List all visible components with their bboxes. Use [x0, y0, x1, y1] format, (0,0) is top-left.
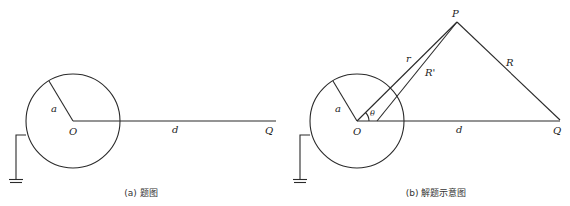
label-Q: Q — [553, 125, 561, 136]
label-d: d — [456, 124, 462, 135]
label-r: r — [406, 53, 412, 64]
label-R-prime: R' — [424, 67, 435, 78]
label-P: P — [451, 8, 459, 19]
angle-arc — [366, 113, 370, 122]
radius-line — [333, 81, 357, 121]
figure-canvas: a O d Q (a) 题图 a O d Q P r R' R θ (b) 解题… — [0, 0, 570, 206]
label-O: O — [353, 126, 361, 137]
label-d: d — [172, 124, 178, 135]
label-O: O — [69, 126, 77, 137]
panel-b: a O d Q P r R' R θ (b) 解题示意图 — [293, 8, 561, 198]
caption-b: (b) 解题示意图 — [406, 187, 467, 198]
label-Q: Q — [265, 125, 273, 136]
panel-a: a O d Q (a) 题图 — [9, 74, 276, 198]
line-R — [457, 22, 560, 120]
label-a: a — [335, 103, 341, 114]
line-r — [357, 22, 457, 121]
label-R: R — [505, 57, 514, 68]
label-theta: θ — [370, 109, 375, 118]
line-R-prime — [377, 22, 457, 121]
ground-wire — [16, 135, 26, 179]
label-a: a — [51, 103, 57, 114]
radius-line — [49, 81, 73, 121]
caption-a: (a) 题图 — [124, 188, 157, 198]
ground-wire — [300, 135, 310, 179]
